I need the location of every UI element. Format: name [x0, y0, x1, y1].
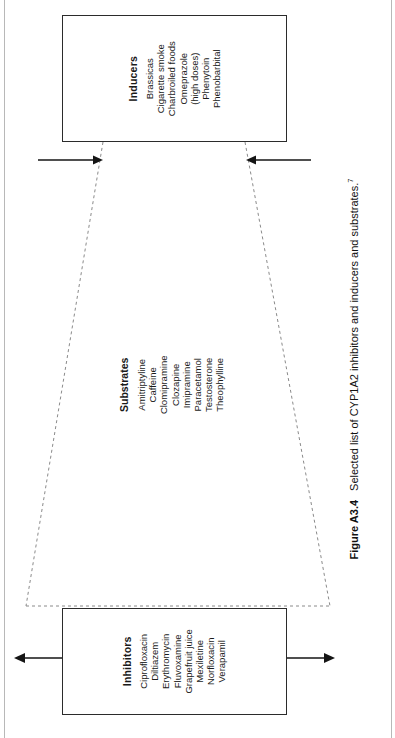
- list-item: Verapamil: [217, 629, 228, 693]
- inducers-title: Inducers: [127, 41, 139, 116]
- list-item: Omeprazole: [177, 41, 188, 116]
- figure-caption-label: Figure A3.4: [348, 500, 360, 560]
- page-edge-rule-right: [391, 0, 392, 738]
- list-item: Theophylline: [215, 356, 226, 415]
- substrates-title: Substrates: [118, 356, 130, 415]
- list-item: (high doses): [189, 41, 200, 116]
- list-item: Phenytoin: [200, 41, 211, 116]
- list-item: Diltiazem: [149, 629, 160, 693]
- arrow-inward-left: [38, 156, 103, 165]
- list-item: Phenobarbital: [211, 41, 222, 116]
- substrates-list: Amitriptyline Caffeine Clomipramine Cloz…: [136, 356, 226, 415]
- arrow-outward-left: [14, 653, 62, 663]
- list-item: Brassicas: [144, 41, 155, 116]
- list-item: Paracetamol: [192, 356, 203, 415]
- list-item: Erythromycin: [161, 629, 172, 693]
- figure-caption: Figure A3.4Selected list of CYP1A2 inhib…: [318, 0, 388, 738]
- page-edge-rule-left: [4, 0, 5, 738]
- list-item: Caffeine: [147, 356, 158, 415]
- list-item: Testosterone: [203, 356, 214, 415]
- inhibitors-box: Inhibitors Ciprofloxacin Diltiazem Eryth…: [62, 608, 287, 715]
- inhibitors-list: Ciprofloxacin Diltiazem Erythromycin Flu…: [138, 629, 228, 693]
- substrates-rotated-content: Substrates Amitriptyline Caffeine Clomip…: [92, 300, 252, 470]
- list-item: Amitriptyline: [136, 356, 147, 415]
- figure-caption-reference: 7: [346, 179, 355, 183]
- list-item: Charbroiled foods: [166, 41, 177, 116]
- list-item: Clomipramine: [159, 356, 170, 415]
- list-item: Ciprofloxacin: [138, 629, 149, 693]
- inducers-rotated-content: Inducers Brassicas Cigarette smoke Charb…: [63, 16, 286, 141]
- arrow-inward-right: [246, 156, 311, 165]
- inducers-box: Inducers Brassicas Cigarette smoke Charb…: [62, 15, 287, 142]
- inhibitors-title: Inhibitors: [121, 629, 133, 693]
- figure-caption-text: Selected list of CYP1A2 inhibitors and i…: [348, 183, 360, 491]
- inhibitors-rotated-content: Inhibitors Ciprofloxacin Diltiazem Eryth…: [63, 609, 286, 714]
- list-item: Norfloxacin: [205, 629, 216, 693]
- substrates-block: Substrates Amitriptyline Caffeine Clomip…: [92, 300, 252, 470]
- list-item: Fluvoxamine: [172, 629, 183, 693]
- list-item: Imipramine: [181, 356, 192, 415]
- list-item: Clozapine: [170, 356, 181, 415]
- figure-page: Inducers Brassicas Cigarette smoke Charb…: [0, 0, 395, 738]
- inducers-list: Brassicas Cigarette smoke Charbroiled fo…: [144, 41, 222, 116]
- list-item: Grapefruit juice: [183, 629, 194, 693]
- list-item: Cigarette smoke: [155, 41, 166, 116]
- list-item: Mexiletine: [194, 629, 205, 693]
